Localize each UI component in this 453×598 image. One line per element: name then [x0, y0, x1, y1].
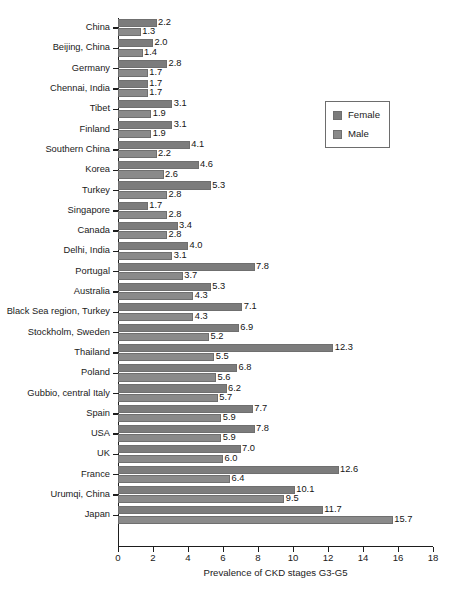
bar-male: 5.7: [118, 394, 218, 402]
bar-value-label: 3.1: [174, 120, 187, 129]
bar-male: 2.8: [118, 191, 167, 199]
category-label: Portugal: [75, 267, 110, 276]
bar-male: 4.3: [118, 292, 193, 300]
bar-value-label: 1.7: [149, 201, 162, 210]
category-label: Black Sea region, Turkey: [7, 308, 110, 317]
bar-row: Thailand12.35.5: [118, 343, 433, 363]
x-axis-tick-label: 12: [323, 553, 334, 563]
bar-value-label: 2.6: [165, 170, 178, 179]
bar-value-label: 7.0: [242, 445, 255, 454]
bar-female: 5.3: [118, 181, 211, 189]
bar-row: Spain7.75.9: [118, 404, 433, 424]
bar-male: 1.3: [118, 28, 141, 36]
bar-value-label: 5.9: [223, 434, 236, 443]
category-label: USA: [91, 429, 110, 438]
bar-male: 1.9: [118, 130, 151, 138]
bar-value-label: 4.1: [191, 140, 204, 149]
bar-value-label: 2.8: [169, 210, 182, 219]
x-axis-line: [118, 546, 433, 547]
x-axis-tick-label: 2: [150, 553, 155, 563]
category-label: Canada: [77, 226, 110, 235]
bar-row: China2.21.3: [118, 18, 433, 38]
bar-value-label: 4.6: [200, 161, 213, 170]
bar-male: 1.4: [118, 49, 143, 57]
category-label: Beijing, China: [53, 44, 110, 53]
bar-value-label: 1.9: [153, 109, 166, 118]
bar-male: 5.9: [118, 434, 221, 442]
bar-row: Beijing, China2.01.4: [118, 38, 433, 58]
bar-male: 5.6: [118, 373, 216, 381]
bar-value-label: 6.4: [232, 474, 245, 483]
x-axis-tick-label: 0: [115, 553, 120, 563]
x-axis-title: Prevalence of CKD stages G3-G5: [118, 568, 433, 578]
bar-row: Black Sea region, Turkey7.14.3: [118, 302, 433, 322]
category-label: France: [81, 470, 110, 479]
bar-value-label: 3.1: [174, 251, 187, 260]
bar-row: Korea4.62.6: [118, 160, 433, 180]
bar-value-label: 5.3: [212, 282, 225, 291]
bar-row: Singapore1.72.8: [118, 201, 433, 221]
category-label: China: [86, 23, 110, 32]
bar-value-label: 1.7: [149, 68, 162, 77]
bar-male: 6.0: [118, 455, 223, 463]
bar-value-label: 7.7: [254, 404, 267, 413]
bar-row: Australia5.34.3: [118, 282, 433, 302]
bar-female: 12.6: [118, 466, 339, 474]
legend-swatch-male-icon: [333, 130, 342, 139]
bar-value-label: 1.3: [142, 28, 155, 37]
bar-row: Delhi, India4.03.1: [118, 241, 433, 261]
bar-value-label: 2.2: [158, 150, 171, 159]
bar-value-label: 6.9: [240, 323, 253, 332]
category-label: Tibet: [90, 105, 110, 114]
bar-row: France12.66.4: [118, 465, 433, 485]
bar-row: Germany2.81.7: [118, 59, 433, 79]
bar-female: 4.6: [118, 161, 199, 169]
bar-row: USA7.85.9: [118, 424, 433, 444]
bar-value-label: 2.8: [169, 231, 182, 240]
category-label: Stockholm, Sweden: [28, 328, 110, 337]
bar-female: 1.7: [118, 202, 148, 210]
bar-row: UK7.06.0: [118, 444, 433, 464]
bar-value-label: 5.5: [216, 353, 229, 362]
x-axis-tick-label: 4: [185, 553, 190, 563]
figure-caption: [6, 590, 446, 598]
bar-male: 2.8: [118, 211, 167, 219]
bar-male: 5.5: [118, 353, 214, 361]
bar-value-label: 6.0: [225, 454, 238, 463]
bar-male: 9.5: [118, 495, 284, 503]
category-label: Urumqi, China: [51, 490, 110, 499]
category-label: Spain: [86, 409, 110, 418]
bar-male: 4.3: [118, 313, 193, 321]
bar-row: Chennai, India1.71.7: [118, 79, 433, 99]
bar-value-label: 1.9: [153, 129, 166, 138]
bar-value-label: 7.8: [256, 262, 269, 271]
bar-value-label: 3.1: [174, 100, 187, 109]
bar-value-label: 2.2: [158, 18, 171, 27]
bar-male: 3.1: [118, 252, 172, 260]
bar-female: 7.0: [118, 445, 241, 453]
legend-item-male: Male: [333, 127, 380, 141]
x-axis-tick-label: 14: [358, 553, 369, 563]
bar-row: Turkey5.32.8: [118, 180, 433, 200]
category-label: Poland: [81, 369, 110, 378]
category-label: Thailand: [74, 348, 110, 357]
x-axis-tick-label: 8: [255, 553, 260, 563]
category-label: Germany: [72, 64, 110, 73]
bar-value-label: 3.7: [184, 271, 197, 280]
bar-value-label: 4.3: [195, 312, 208, 321]
x-axis-tick-label: 10: [288, 553, 299, 563]
bar-male: 2.6: [118, 170, 164, 178]
bar-row: Poland6.85.6: [118, 363, 433, 383]
bar-value-label: 5.3: [212, 181, 225, 190]
legend-label-male: Male: [348, 129, 369, 139]
bar-value-label: 5.2: [211, 332, 224, 341]
bar-female: 11.7: [118, 506, 323, 514]
bar-female: 4.1: [118, 141, 190, 149]
bar-male: 2.2: [118, 150, 157, 158]
bar-value-label: 15.7: [394, 515, 412, 524]
bar-row: Portugal7.83.7: [118, 262, 433, 282]
bar-male: 6.4: [118, 475, 230, 483]
legend-item-female: Female: [333, 108, 380, 122]
bar-value-label: 6.8: [239, 364, 252, 373]
x-axis-tick-label: 6: [220, 553, 225, 563]
